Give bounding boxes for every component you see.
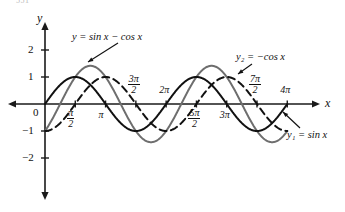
x-tick-label: 5π2 [188,108,200,129]
trig-graph-figure: 551 y x 0 21−1−2 π2π3π22π5π23π7π24π y = … [0,0,345,212]
y-tick-label: 1 [28,71,34,82]
x-tick-denominator: 2 [128,85,140,95]
x-tick-denominator: 2 [67,119,74,129]
page-corner-number: 551 [16,0,30,5]
y-tick-label: −2 [22,152,34,163]
y-tick-label: −1 [22,125,34,136]
x-tick-label: 3π2 [128,74,140,95]
sum-curve-label: y = sin x − cos x [72,32,142,43]
y-tick-label: 2 [28,44,34,55]
x-axis-label: x [325,97,330,109]
x-tick-label: 7π2 [249,74,261,95]
origin-label: 0 [33,107,39,118]
y1-curve-label: y₁ = sin x [287,130,327,141]
x-tick-label: π [99,110,104,120]
x-tick-denominator: 2 [249,85,261,95]
x-tick-label: 3π [220,110,230,120]
coordinate-plane-svg [0,0,345,212]
x-tick-label: 2π [159,85,169,95]
x-tick-label: π2 [67,108,74,129]
y2-curve-label: y₂ = −cos x [236,52,285,63]
x-tick-denominator: 2 [188,119,200,129]
axes-layer [8,22,320,200]
y-axis-label: y [37,12,42,24]
x-tick-label: 4π [280,85,290,95]
